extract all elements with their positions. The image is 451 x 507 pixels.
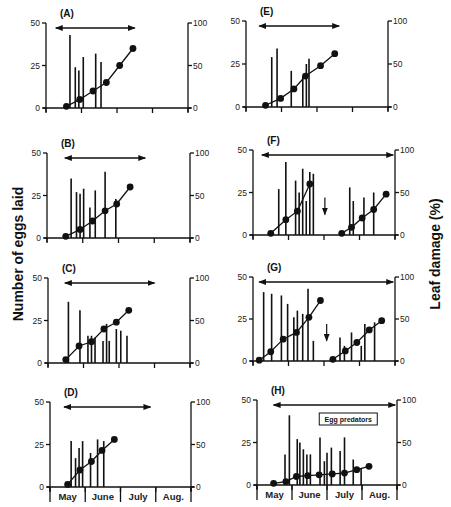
right-tick-label: 50 [195, 316, 205, 326]
damage-line [66, 187, 130, 236]
right-tick-label: 100 [402, 395, 416, 405]
damage-point [348, 224, 355, 231]
right-tick-label: 100 [193, 18, 207, 28]
panel-label: (C) [62, 263, 76, 274]
left-tick-label: 50 [238, 272, 248, 282]
damage-point [370, 206, 377, 213]
damage-point [270, 480, 277, 487]
right-axis-label: Leaf damage (%) [427, 198, 443, 309]
right-tick-label: 100 [393, 16, 407, 26]
left-tick-label: 50 [33, 273, 43, 283]
damage-point [76, 96, 83, 103]
left-tick-label: 0 [246, 480, 251, 490]
damage-point [353, 466, 360, 473]
left-tick-label: 25 [231, 59, 241, 69]
damage-point [130, 45, 137, 52]
damage-point [317, 62, 324, 69]
damage-point [331, 50, 338, 57]
right-tick-label: 50 [400, 314, 410, 324]
damage-point [341, 470, 348, 477]
damage-point [282, 478, 289, 485]
damage-point [262, 102, 269, 109]
annotation-text: Egg predators [325, 416, 373, 424]
damage-point [111, 436, 118, 443]
damage-point [304, 472, 311, 479]
damage-point [63, 103, 70, 110]
left-tick-label: 25 [35, 440, 45, 450]
panels-group: 02550050100(A)02550050100(E)02550050100(… [31, 6, 417, 502]
panel-label: (G) [267, 262, 281, 273]
left-axis-label: Number of eggs laid [10, 187, 26, 322]
figure: 02550050100(A)02550050100(E)02550050100(… [0, 0, 451, 507]
panel-label: (A) [60, 8, 74, 19]
left-tick-label: 25 [238, 314, 248, 324]
right-tick-label: 0 [393, 102, 398, 112]
damage-point [267, 230, 274, 237]
damage-point [89, 218, 96, 225]
left-tick-label: 25 [238, 188, 248, 198]
damage-point [88, 458, 95, 465]
month-label: June [298, 489, 320, 500]
damage-point [359, 215, 366, 222]
damage-point [293, 329, 300, 336]
damage-line [271, 184, 310, 233]
right-tick-label: 50 [400, 188, 410, 198]
damage-point [316, 471, 323, 478]
right-tick-label: 0 [400, 230, 405, 240]
month-label: July [335, 489, 355, 500]
damage-point [76, 343, 83, 350]
damage-point [306, 314, 313, 321]
damage-point [338, 230, 345, 237]
damage-line [266, 54, 335, 106]
damage-point [88, 338, 95, 345]
damage-point [293, 473, 300, 480]
right-tick-label: 100 [400, 145, 414, 155]
left-tick-label: 50 [31, 18, 41, 28]
damage-point [294, 208, 301, 215]
month-label: Aug. [369, 489, 390, 500]
panel-f: 02550050100(F) [238, 135, 415, 240]
right-tick-label: 0 [195, 358, 200, 368]
left-tick-label: 0 [242, 230, 247, 240]
damage-point [113, 201, 120, 208]
panel-b: 02550050100(B) [32, 138, 210, 243]
damage-point [306, 181, 313, 188]
damage-point [282, 216, 289, 223]
left-tick-label: 0 [235, 102, 240, 112]
right-tick-label: 50 [393, 59, 403, 69]
damage-point [277, 95, 284, 102]
right-tick-label: 0 [196, 482, 201, 492]
right-tick-label: 50 [196, 440, 206, 450]
panel-d: 02550050100MayJuneJulyAug.(D) [35, 387, 211, 502]
right-tick-label: 100 [400, 272, 414, 282]
damage-point [317, 297, 324, 304]
right-tick-label: 50 [402, 438, 412, 448]
left-tick-label: 50 [231, 16, 241, 26]
damage-point [77, 226, 84, 233]
damage-point [267, 348, 274, 355]
damage-point [329, 471, 336, 478]
damage-point [291, 86, 298, 93]
right-tick-label: 0 [193, 103, 198, 113]
right-tick-label: 50 [193, 61, 203, 71]
damage-point [101, 326, 108, 333]
left-tick-label: 25 [32, 191, 42, 201]
right-tick-label: 50 [195, 191, 205, 201]
month-label: May [58, 491, 77, 502]
damage-point [366, 327, 373, 334]
panel-c: 02550050100(C) [33, 263, 210, 368]
damage-point [366, 463, 373, 470]
panel-g: 02550050100(G) [238, 262, 415, 366]
damage-point [116, 62, 123, 69]
damage-point [90, 88, 97, 95]
panel-e: 02550050100(E) [231, 6, 408, 112]
damage-point [99, 447, 106, 454]
right-tick-label: 0 [195, 233, 200, 243]
damage-point [64, 481, 71, 488]
damage-line [66, 310, 129, 359]
left-tick-label: 0 [242, 356, 247, 366]
left-tick-label: 0 [39, 482, 44, 492]
damage-point [127, 184, 134, 191]
left-tick-label: 50 [32, 148, 42, 158]
damage-point [280, 336, 287, 343]
